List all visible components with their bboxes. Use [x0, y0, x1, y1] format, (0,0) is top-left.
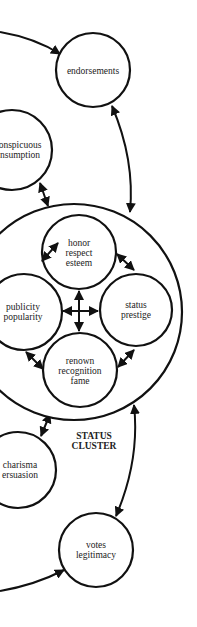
svg-text:ersuasion: ersuasion: [2, 470, 38, 480]
svg-text:renown: renown: [66, 356, 95, 366]
svg-text:charisma: charisma: [3, 460, 38, 470]
svg-text:recognition: recognition: [58, 366, 102, 376]
node-honor-respect-esteem: honor respect esteem: [42, 215, 116, 289]
cluster-title-line1: STATUS: [76, 431, 112, 441]
svg-text:esteem: esteem: [66, 258, 93, 268]
svg-text:honor: honor: [68, 238, 91, 248]
node-endorsements: endorsements: [56, 33, 130, 107]
edge-in-endorsements: [0, 32, 60, 54]
svg-text:status: status: [125, 300, 147, 310]
edge-in-votes: [0, 570, 64, 591]
node-votes-legitimacy: votes legitimacy: [59, 513, 133, 587]
edge-conspicuous-cluster: [40, 183, 48, 206]
svg-text:nsumption: nsumption: [0, 150, 40, 160]
cluster-title-line2: CLUSTER: [72, 441, 117, 451]
svg-text:fame: fame: [71, 376, 90, 386]
svg-text:votes: votes: [86, 540, 106, 550]
svg-text:onspicuous: onspicuous: [0, 140, 42, 150]
status-cluster-diagram: endorsements onspicuous nsumption charis…: [0, 0, 197, 627]
node-status-prestige: status prestige: [100, 274, 172, 346]
edge-endorsements-cluster: [112, 106, 131, 212]
node-renown-recognition-fame: renown recognition fame: [43, 333, 117, 407]
node-conspicuous-consumption: onspicuous nsumption: [0, 110, 52, 190]
svg-text:prestige: prestige: [121, 310, 151, 320]
node-charisma-persuasion: charisma ersuasion: [0, 432, 56, 508]
svg-text:publicity: publicity: [6, 302, 40, 312]
svg-text:respect: respect: [66, 248, 93, 258]
svg-text:popularity: popularity: [3, 312, 42, 322]
svg-text:endorsements: endorsements: [67, 66, 120, 76]
svg-text:legitimacy: legitimacy: [76, 550, 116, 560]
edge-cluster-votes: [116, 405, 135, 516]
